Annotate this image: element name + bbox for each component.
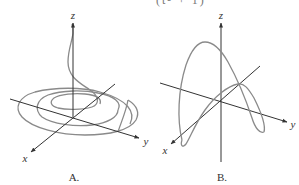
panel-a-z-label: z (71, 10, 75, 21)
panel-a-axes (10, 23, 139, 152)
panel-b-x-label: x (163, 145, 168, 156)
panel-b-y-label: y (291, 119, 296, 130)
figure-drawing (0, 0, 299, 185)
panel-b (160, 23, 287, 162)
panel-a (10, 23, 139, 152)
panel-b-caption: B. (217, 172, 227, 183)
panel-a-caption: A. (69, 172, 80, 183)
panel-a-x-label: x (23, 153, 28, 164)
panel-b-curve (179, 42, 264, 146)
panel-a-spiral (18, 24, 138, 135)
panel-a-y-label: y (144, 136, 149, 147)
panel-b-axes (160, 23, 287, 162)
panel-b-z-label: z (219, 10, 223, 21)
figure: (t² + 1) (0, 0, 299, 185)
panel-b-x-axis (171, 66, 260, 144)
